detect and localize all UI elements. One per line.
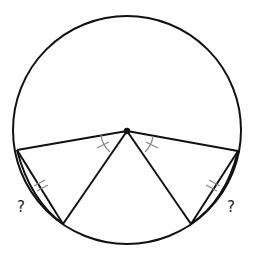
- radius-left: [17, 131, 127, 150]
- radius-bottom-left: [63, 131, 127, 224]
- radius-right: [127, 131, 238, 151]
- geometry-diagram: ? ?: [0, 0, 254, 254]
- angle-tick-right: [146, 142, 158, 148]
- center-point: [124, 128, 130, 134]
- radius-bottom-right: [127, 131, 191, 224]
- unknown-label-left: ?: [17, 198, 25, 216]
- unknown-label-right: ?: [227, 198, 235, 216]
